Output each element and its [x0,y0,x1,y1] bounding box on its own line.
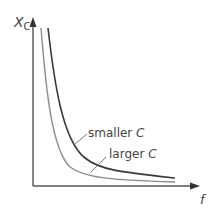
larger-c-leader [91,157,106,172]
x-axis-arrow-icon [190,183,200,190]
label-smaller-c: smaller C [88,126,145,140]
smaller-c-leader [75,134,87,144]
label-larger-c: larger C [109,147,157,161]
reactance-frequency-diagram: XC f smaller C larger C [0,0,219,211]
x-axis-label: f [200,192,207,207]
y-axis-label: XC [13,14,31,32]
